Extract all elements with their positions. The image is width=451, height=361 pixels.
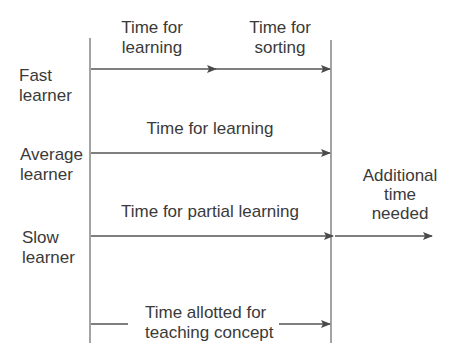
slow-partial-segment-label: Time for partial learning <box>110 202 310 222</box>
fast-learning-segment-label: Time for learning <box>112 18 192 58</box>
slow-learner-label: Slow learner <box>22 228 75 268</box>
additional-time-label: Additional time needed <box>355 166 445 223</box>
allotted-time-label: Time allotted for teaching concept <box>145 303 274 343</box>
fast-learner-label: Fast learner <box>19 66 72 106</box>
average-learning-segment-label: Time for learning <box>130 119 290 139</box>
average-learner-label: Average learner <box>20 145 83 185</box>
fast-sorting-segment-label: Time for sorting <box>240 18 320 58</box>
